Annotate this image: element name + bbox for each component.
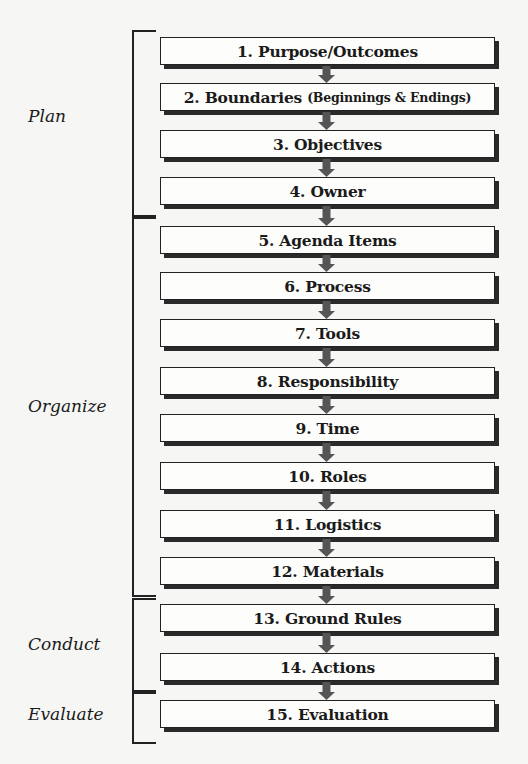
step-box-13: 13. Ground Rules <box>160 604 495 632</box>
step-label: 7. Tools <box>295 324 360 343</box>
phase-bracket-organize <box>132 217 156 597</box>
phase-label-plan: Plan <box>28 106 66 126</box>
step-box-11: 11. Logistics <box>160 510 495 538</box>
step-box-6: 6. Process <box>160 272 495 300</box>
step-box-15: 15. Evaluation <box>160 700 495 728</box>
down-arrow-icon <box>318 301 335 319</box>
down-arrow-icon <box>318 112 335 130</box>
step-box-9: 9. Time <box>160 414 495 442</box>
down-arrow-icon <box>318 539 335 557</box>
down-arrow-icon <box>318 586 335 604</box>
down-arrow-icon <box>318 206 335 226</box>
down-arrow-icon <box>318 633 335 653</box>
step-sublabel: (Beginnings & Endings) <box>307 90 471 105</box>
phase-bracket-conduct <box>132 598 156 692</box>
phase-label-conduct: Conduct <box>28 634 100 654</box>
step-box-1: 1. Purpose/Outcomes <box>160 37 495 65</box>
step-label: 12. Materials <box>271 562 384 581</box>
step-label: 6. Process <box>284 277 371 296</box>
phase-bracket-plan <box>132 30 156 217</box>
step-label: 3. Objectives <box>273 135 382 154</box>
step-box-5: 5. Agenda Items <box>160 226 495 254</box>
down-arrow-icon <box>318 159 335 177</box>
down-arrow-icon <box>318 396 335 414</box>
step-label: 10. Roles <box>288 467 366 486</box>
step-box-8: 8. Responsibility <box>160 367 495 395</box>
step-label: 8. Responsibility <box>257 372 398 391</box>
step-label: 4. Owner <box>289 182 365 201</box>
step-box-3: 3. Objectives <box>160 130 495 158</box>
step-label: 5. Agenda Items <box>258 231 396 250</box>
down-arrow-icon <box>318 255 335 272</box>
step-label: 14. Actions <box>280 658 375 677</box>
step-box-12: 12. Materials <box>160 557 495 585</box>
phase-label-organize: Organize <box>28 396 106 416</box>
down-arrow-icon <box>318 443 335 462</box>
down-arrow-icon <box>318 348 335 367</box>
down-arrow-icon <box>318 66 335 83</box>
step-box-2: 2. Boundaries(Beginnings & Endings) <box>160 83 495 111</box>
down-arrow-icon <box>318 682 335 700</box>
step-label: 15. Evaluation <box>266 705 388 724</box>
step-box-14: 14. Actions <box>160 653 495 681</box>
step-label: 2. Boundaries <box>184 88 302 107</box>
phase-label-evaluate: Evaluate <box>28 704 104 724</box>
phase-bracket-evaluate <box>132 692 156 744</box>
step-box-10: 10. Roles <box>160 462 495 490</box>
step-label: 11. Logistics <box>274 515 382 534</box>
step-label: 9. Time <box>296 419 360 438</box>
step-label: 1. Purpose/Outcomes <box>237 42 418 61</box>
step-box-7: 7. Tools <box>160 319 495 347</box>
step-box-4: 4. Owner <box>160 177 495 205</box>
down-arrow-icon <box>318 491 335 510</box>
step-label: 13. Ground Rules <box>253 609 401 628</box>
